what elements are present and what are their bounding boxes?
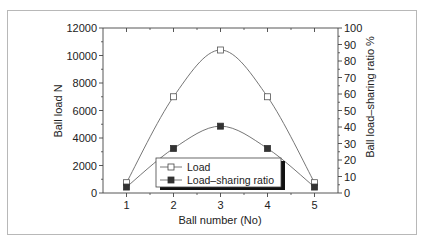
load-data-point (218, 47, 224, 53)
y2-tick-label: 60 (344, 88, 356, 100)
x-tick-label: 4 (264, 199, 270, 211)
ratio-data-point (265, 145, 271, 151)
legend-load-marker-icon (168, 164, 174, 170)
y2-axis-label: Ball load–sharing ratio % (364, 36, 376, 158)
legend-label-load: Load (187, 161, 211, 173)
x-tick-label: 5 (311, 199, 317, 211)
y-tick-label: 4000 (73, 132, 97, 144)
legend-ratio-marker-icon (168, 177, 174, 183)
x-tick-label: 2 (170, 199, 176, 211)
y-tick-label: 8000 (73, 77, 97, 89)
y2-tick-label: 80 (344, 55, 356, 67)
y-tick-label: 10000 (66, 50, 97, 62)
chart: 0200040006000800010000120000102030405060… (0, 0, 427, 243)
legend-label-ratio: Load–sharing ratio (187, 174, 274, 186)
y2-tick-label: 70 (344, 72, 356, 84)
y-tick-label: 0 (91, 187, 97, 199)
load-data-point (171, 94, 177, 100)
load-data-point (265, 94, 271, 100)
y2-tick-label: 0 (344, 187, 350, 199)
y-tick-label: 2000 (73, 160, 97, 172)
y2-tick-label: 10 (344, 171, 356, 183)
y2-tick-label: 30 (344, 138, 356, 150)
y2-tick-label: 100 (344, 22, 362, 34)
ratio-data-point (124, 184, 130, 190)
x-axis-label: Ball number (No) (178, 214, 261, 226)
y-tick-label: 6000 (73, 105, 97, 117)
x-tick-label: 3 (217, 199, 223, 211)
ratio-data-point (218, 123, 224, 129)
legend: Load Load–sharing ratio (156, 158, 285, 190)
ratio-data-point (171, 145, 177, 151)
y-axis-label: Ball load N (52, 84, 64, 137)
x-tick-label: 1 (123, 199, 129, 211)
y2-tick-label: 90 (344, 39, 356, 51)
ratio-data-point (312, 184, 318, 190)
y2-tick-label: 20 (344, 154, 356, 166)
y-tick-label: 12000 (66, 22, 97, 34)
y2-tick-label: 50 (344, 105, 356, 117)
y2-tick-label: 40 (344, 121, 356, 133)
